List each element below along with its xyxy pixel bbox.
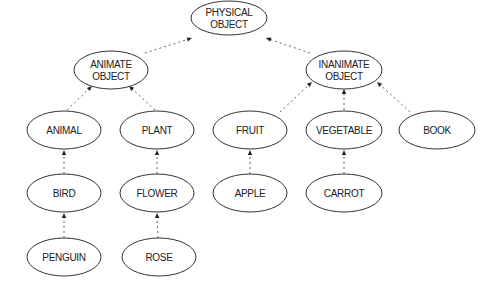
edge-rose-to-flower [155, 213, 159, 238]
node-fruit: FRUIT [213, 111, 287, 149]
node-label: ROSE [145, 252, 173, 263]
edge-fruit-to-inanimate-object [280, 82, 312, 112]
arrowhead-icon [342, 89, 346, 94]
node-label: PENGUIN [42, 252, 86, 263]
node-label: FLOWER [137, 188, 178, 199]
edge-animate-object-to-physical-object [145, 37, 192, 53]
edge-vegetable-to-inanimate-object [342, 89, 346, 110]
node-vegetable: VEGETABLE [306, 111, 382, 149]
node-label: APPLE [235, 188, 266, 199]
edge-apple-to-fruit [248, 150, 252, 174]
dotted-connector [280, 82, 312, 112]
edge-animal-to-animate-object [67, 86, 92, 110]
arrowhead-icon [377, 82, 382, 87]
node-carrot: CARROT [306, 174, 382, 212]
edge-plant-to-animate-object [129, 86, 155, 110]
node-label: BIRD [53, 188, 76, 199]
node-flower: FLOWER [120, 174, 194, 212]
node-label: FRUIT [236, 125, 264, 136]
hierarchy-diagram: PHYSICALOBJECTANIMATEOBJECTINANIMATEOBJE… [0, 0, 500, 295]
node-plant: PLANT [120, 111, 194, 149]
node-animal: ANIMAL [27, 111, 101, 149]
arrowhead-icon [62, 213, 66, 218]
arrowhead-icon [307, 82, 312, 87]
node-label: OBJECT [325, 71, 363, 82]
node-animate-object: ANIMATEOBJECT [74, 51, 148, 89]
arrowhead-icon [62, 150, 66, 155]
node-physical-object: PHYSICALOBJECT [191, 1, 267, 35]
node-book: BOOK [399, 111, 475, 149]
arrowhead-icon [187, 37, 192, 41]
node-label: CARROT [324, 188, 365, 199]
arrowhead-icon [155, 150, 159, 155]
node-label: PLANT [142, 125, 173, 136]
arrowhead-icon [248, 150, 252, 155]
arrowhead-icon [266, 38, 271, 42]
dotted-connector [129, 86, 155, 110]
dotted-connector [377, 82, 410, 112]
nodes-layer: PHYSICALOBJECTANIMATEOBJECTINANIMATEOBJE… [27, 1, 475, 276]
node-label: PHYSICAL [205, 7, 253, 18]
node-penguin: PENGUIN [27, 238, 101, 276]
arrowhead-icon [155, 213, 159, 218]
node-label: ANIMAL [46, 125, 82, 136]
edge-penguin-to-bird [62, 213, 66, 238]
arrowhead-icon [342, 150, 346, 155]
node-rose: ROSE [122, 238, 196, 276]
node-label: INANIMATE [318, 59, 370, 70]
edge-carrot-to-vegetable [342, 150, 346, 174]
node-apple: APPLE [213, 174, 287, 212]
edge-bird-to-animal [62, 150, 66, 174]
node-label: OBJECT [92, 71, 130, 82]
node-label: OBJECT [210, 19, 248, 30]
arrowhead-icon [87, 86, 92, 91]
node-label: BOOK [423, 125, 451, 136]
node-inanimate-object: INANIMATEOBJECT [306, 51, 382, 89]
node-label: ANIMATE [90, 59, 132, 70]
dotted-connector [67, 86, 92, 110]
dotted-connector [145, 38, 192, 53]
edge-flower-to-plant [155, 150, 159, 174]
node-label: VEGETABLE [316, 125, 373, 136]
edge-inanimate-object-to-physical-object [266, 38, 310, 53]
node-bird: BIRD [27, 174, 101, 212]
dotted-connector [266, 38, 310, 53]
edge-book-to-inanimate-object [377, 82, 410, 112]
